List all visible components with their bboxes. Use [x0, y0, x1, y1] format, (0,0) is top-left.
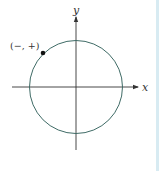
point-label: (−, +) — [10, 40, 39, 51]
x-axis-label: x — [142, 81, 149, 94]
point-marker — [41, 51, 46, 56]
coordinate-diagram: x y (−, +) — [0, 0, 159, 171]
right-border — [156, 0, 159, 171]
diagram-canvas: x y (−, +) — [0, 0, 159, 171]
y-axis-label: y — [72, 4, 80, 17]
